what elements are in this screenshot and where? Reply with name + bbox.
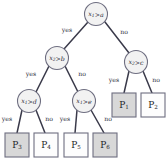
leaf-node-p5: P5 <box>64 133 88 157</box>
tree-edge-n-left-right-to-leaf-p6 <box>91 110 104 133</box>
tree-edge-n-right-to-leaf-p2 <box>143 71 152 93</box>
edge-label-no-n-left: no <box>78 70 86 77</box>
decision-tree-diagram: P3P4P5P6P1P2 x1>ax2>bx2>cx1>dx1>e yesnoy… <box>0 0 166 162</box>
edge-label-no-n-left-left: no <box>45 115 53 122</box>
decision-node-n-right: x2>c <box>125 51 148 74</box>
leaf-node-p3: P3 <box>5 133 29 157</box>
edge-label-yes-n-left: yes <box>25 70 36 78</box>
tree-edge-n-left-right-to-leaf-p5 <box>75 110 77 133</box>
leaf-node-p6: P6 <box>93 133 117 157</box>
leaf-node-p1: P1 <box>112 93 136 117</box>
edge-label-yes-n-left-right: yes <box>59 115 70 123</box>
edge-label-no-n-right: no <box>152 76 160 83</box>
edge-label-yes-root: yes <box>61 26 72 34</box>
tree-edge-n-left-to-n-left-left <box>36 66 49 92</box>
tree-edge-n-left-left-to-leaf-p4 <box>36 110 45 133</box>
decision-node-n-left-right: x1>e <box>73 90 96 113</box>
edge-label-yes-n-right: yes <box>108 76 119 84</box>
edge-label-no-root: no <box>120 28 128 35</box>
decision-node-n-left: x2>b <box>46 47 69 70</box>
leaf-node-p4: P4 <box>34 133 58 157</box>
tree-edge-n-left-to-n-left-right <box>65 66 78 92</box>
decision-node-n-left-left: x1>d <box>18 90 41 113</box>
edge-label-yes-n-left-left: yes <box>1 115 12 123</box>
decision-tree-canvas: P3P4P5P6P1P2 x1>ax2>bx2>cx1>dx1>e yesnoy… <box>0 0 166 162</box>
leaf-node-p2: P2 <box>141 93 165 117</box>
tree-edge-n-left-left-to-leaf-p3 <box>17 110 22 133</box>
decision-node-root: x1>a <box>85 3 108 26</box>
tree-edge-n-right-to-leaf-p1 <box>124 71 129 93</box>
edge-label-no-n-left-right: no <box>104 115 112 122</box>
